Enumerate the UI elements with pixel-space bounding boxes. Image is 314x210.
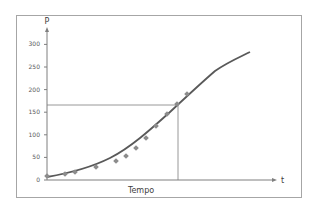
y-tick-300: 300 [29, 40, 41, 47]
x-axis-title: Tempo [127, 186, 154, 195]
y-tick-150: 150 [29, 108, 41, 115]
y-axis-name: P [45, 17, 50, 26]
y-tick-100: 100 [29, 131, 41, 138]
y-tick-50: 50 [32, 153, 40, 160]
y-tick-250: 250 [29, 63, 41, 70]
chart-frame [17, 16, 302, 198]
chart-canvas: P t 0 50 100 150 200 250 300 [0, 0, 314, 210]
y-tick-200: 200 [29, 86, 41, 93]
x-axis-name: t [281, 176, 284, 185]
y-tick-0: 0 [36, 176, 40, 183]
